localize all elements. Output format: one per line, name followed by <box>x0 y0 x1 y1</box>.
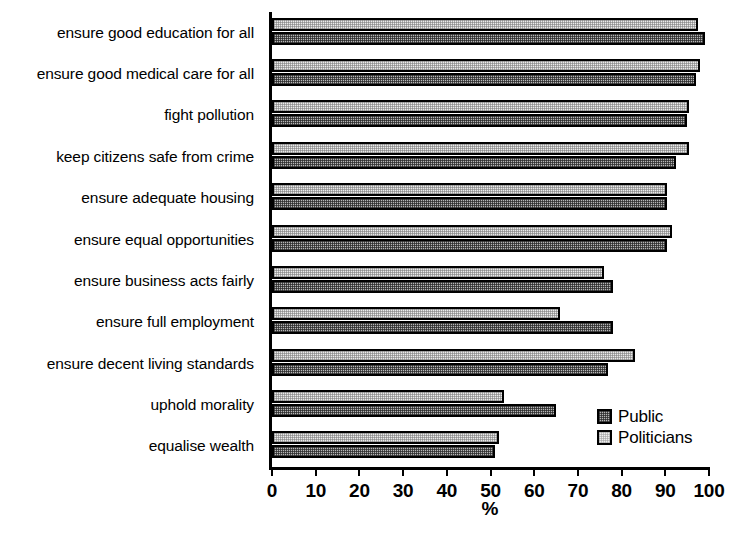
x-tick-label: 90 <box>655 480 676 502</box>
bar-politicians <box>272 183 667 196</box>
x-tick-label: 60 <box>524 480 545 502</box>
bar-public <box>272 239 667 252</box>
bar-politicians <box>272 225 672 238</box>
bar-chart: ensure good education for allensure good… <box>0 0 739 545</box>
category-label: ensure decent living standards <box>47 356 254 372</box>
x-tick-mark <box>358 467 360 476</box>
chart-legend: PublicPoliticians <box>597 406 692 448</box>
bar-public <box>272 445 495 458</box>
category-label: ensure good education for all <box>57 25 254 41</box>
x-tick-label: 80 <box>611 480 632 502</box>
x-tick-mark <box>577 467 579 476</box>
category-label-column: ensure good education for allensure good… <box>0 0 264 455</box>
bar-politicians <box>272 307 560 320</box>
x-tick-mark <box>402 467 404 476</box>
bar-politicians <box>272 390 504 403</box>
x-tick-label: 40 <box>437 480 458 502</box>
x-tick-mark <box>664 467 666 476</box>
bar-public <box>272 197 667 210</box>
x-tick-mark <box>533 467 535 476</box>
category-label: ensure good medical care for all <box>37 66 254 82</box>
category-label: ensure adequate housing <box>81 190 254 206</box>
bar-public <box>272 156 676 169</box>
legend-swatch-icon <box>597 430 612 445</box>
bar-public <box>272 280 613 293</box>
bar-public <box>272 32 705 45</box>
legend-label: Politicians <box>618 428 692 448</box>
bar-politicians <box>272 266 604 279</box>
bar-public <box>272 114 687 127</box>
bar-politicians <box>272 349 635 362</box>
x-tick-label: 0 <box>267 480 277 502</box>
bar-politicians <box>272 431 499 444</box>
x-tick-mark <box>315 467 317 476</box>
x-tick-mark <box>490 467 492 476</box>
bar-public <box>272 321 613 334</box>
category-label: ensure full employment <box>96 314 254 330</box>
legend-item: Politicians <box>597 427 692 448</box>
bar-public <box>272 73 696 86</box>
category-label: ensure business acts fairly <box>74 273 254 289</box>
x-tick-mark <box>708 467 710 476</box>
bar-public <box>272 363 608 376</box>
category-label: uphold morality <box>150 397 254 413</box>
x-tick-mark <box>621 467 623 476</box>
bar-politicians <box>272 59 700 72</box>
legend-label: Public <box>618 407 663 427</box>
x-tick-mark <box>446 467 448 476</box>
bar-politicians <box>272 100 689 113</box>
bar-politicians <box>272 18 698 31</box>
category-label: keep citizens safe from crime <box>56 149 254 165</box>
legend-swatch-icon <box>597 409 612 424</box>
bar-public <box>272 404 556 417</box>
plot-area: 0102030405060708090100 <box>272 12 709 467</box>
bar-politicians <box>272 142 689 155</box>
category-label: ensure equal opportunities <box>74 232 254 248</box>
x-tick-mark <box>271 467 273 476</box>
x-tick-label: 10 <box>305 480 326 502</box>
x-axis-title: % <box>482 498 499 520</box>
category-label: fight pollution <box>164 107 254 123</box>
category-label: equalise wealth <box>149 438 254 454</box>
x-tick-label: 70 <box>568 480 589 502</box>
legend-item: Public <box>597 406 692 427</box>
x-tick-label: 30 <box>393 480 414 502</box>
x-tick-label: 20 <box>349 480 370 502</box>
x-tick-label: 100 <box>694 480 725 502</box>
